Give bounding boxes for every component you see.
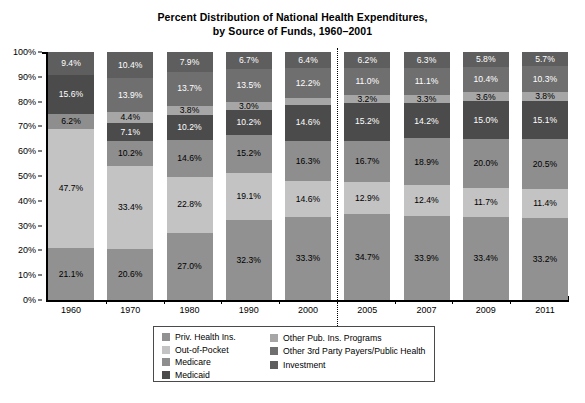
bar-segment[interactable]: 33.2% <box>522 218 568 300</box>
bar-segment-value: 7.9% <box>180 58 200 67</box>
legend-item[interactable]: Medicare <box>162 356 270 368</box>
y-axis-tick-label: 10% <box>18 270 36 280</box>
bar-segment[interactable]: 13.5% <box>226 69 272 102</box>
bar-column-1980[interactable]: 7.9%13.7%3.8%10.2%14.6%22.8%27.0% <box>167 52 213 300</box>
bar-segment[interactable]: 3.6% <box>463 92 509 101</box>
bar-segment[interactable]: 16.3% <box>285 141 331 181</box>
bar-segment[interactable]: 3.2% <box>344 95 390 103</box>
bar-segment[interactable]: 4.4% <box>107 112 153 123</box>
legend-swatch-icon <box>162 371 170 379</box>
bar-column-2007[interactable]: 6.3%11.1%3.3%14.2%18.9%12.4%33.9% <box>404 52 450 300</box>
legend-item[interactable]: Medicaid <box>162 369 270 381</box>
bar-segment[interactable]: 14.2% <box>404 103 450 138</box>
bar-segment[interactable]: 12.9% <box>344 182 390 214</box>
bar-segment[interactable]: 10.4% <box>107 52 153 78</box>
bar-segment[interactable]: 20.5% <box>522 139 568 190</box>
bar-segment[interactable]: 6.2% <box>344 52 390 67</box>
bar-segment[interactable]: 11.4% <box>522 189 568 217</box>
bar-segment-value: 3.3% <box>417 95 437 103</box>
bar-segment[interactable]: 14.6% <box>285 181 331 217</box>
x-axis-label-2009: 2009 <box>463 305 509 315</box>
y-axis-tick-label: 100% <box>13 47 36 57</box>
bar-segment-value: 33.9% <box>414 254 438 263</box>
bar-segment[interactable]: 32.3% <box>226 220 272 300</box>
legend-label: Medicaid <box>175 370 210 380</box>
legend: Priv. Health Ins.Out-of-PocketMedicareMe… <box>153 326 435 382</box>
legend-item[interactable]: Other Pub. Ins. Programs <box>270 331 430 344</box>
y-axis-tick-mark <box>38 151 42 152</box>
bar-segment[interactable]: 6.2% <box>48 114 94 129</box>
bar-segment[interactable]: 19.1% <box>226 173 272 220</box>
bar-segment-value: 10.2% <box>118 149 142 158</box>
bar-segment[interactable]: 6.7% <box>226 52 272 69</box>
bar-column-1990[interactable]: 6.7%13.5%3.0%10.2%15.2%19.1%32.3% <box>226 52 272 300</box>
bar-segment[interactable]: 10.2% <box>107 141 153 166</box>
bar-column-2011[interactable]: 5.7%10.3%3.8%15.1%20.5%11.4%33.2% <box>522 52 568 300</box>
bar-column-1970[interactable]: 10.4%13.9%4.4%7.1%10.2%33.4%20.6% <box>107 52 153 300</box>
bar-segment[interactable]: 10.3% <box>522 66 568 92</box>
bar-column-2009[interactable]: 5.8%10.4%3.6%15.0%20.0%11.7%33.4% <box>463 52 509 300</box>
bar-segment[interactable]: 33.4% <box>463 217 509 300</box>
bar-segment[interactable]: 15.2% <box>226 135 272 173</box>
bar-segment[interactable]: 10.2% <box>167 115 213 140</box>
bar-segment[interactable]: 18.9% <box>404 138 450 185</box>
bar-segment[interactable]: 12.4% <box>404 185 450 216</box>
bar-segment[interactable]: 13.7% <box>167 72 213 106</box>
bar-segment-value: 4.4% <box>120 113 140 122</box>
bar-segment[interactable]: 9.4% <box>48 52 94 75</box>
bar-segment[interactable]: 10.2% <box>226 110 272 135</box>
bar-segment[interactable]: 20.0% <box>463 139 509 189</box>
legend-swatch-icon <box>162 333 170 341</box>
bar-segment-value: 13.7% <box>177 84 201 93</box>
bar-segment[interactable]: 21.1% <box>48 248 94 300</box>
bar-segment[interactable]: 15.6% <box>48 75 94 114</box>
legend-item[interactable]: Priv. Health Ins. <box>162 331 270 343</box>
bar-segment[interactable]: 33.9% <box>404 216 450 300</box>
bar-segment[interactable]: 5.8% <box>463 52 509 66</box>
bar-column-2005[interactable]: 6.2%11.0%3.2%15.2%16.7%12.9%34.7% <box>344 52 390 300</box>
bar-segment[interactable]: 11.0% <box>344 68 390 95</box>
bar-segment[interactable]: 14.6% <box>167 140 213 176</box>
legend-item[interactable]: Investment <box>270 358 430 371</box>
bar-segment-value: 3.8% <box>535 92 555 101</box>
bar-segment-value: 11.7% <box>474 198 498 207</box>
x-axis-tick-mark <box>106 300 107 304</box>
legend-label: Other Pub. Ins. Programs <box>283 333 382 343</box>
bar-segment[interactable]: 11.7% <box>463 188 509 217</box>
bar-column-2000[interactable]: 6.4%12.2%14.6%16.3%14.6%33.3% <box>285 52 331 300</box>
bar-column-1960[interactable]: 9.4%15.6%6.2%47.7%21.1% <box>48 52 94 300</box>
bar-segment[interactable]: 27.0% <box>167 233 213 300</box>
bar-segment[interactable]: 34.7% <box>344 214 390 300</box>
bar-segment[interactable]: 6.4% <box>285 52 331 68</box>
bar-segment[interactable]: 3.0% <box>226 102 272 109</box>
bar-segment[interactable]: 3.3% <box>404 95 450 103</box>
bar-segment[interactable]: 3.8% <box>522 92 568 101</box>
bar-segment[interactable]: 6.3% <box>404 52 450 68</box>
legend-item[interactable]: Other 3rd Party Payers/Public Health <box>270 345 430 358</box>
x-axis-labels: 196019701980199020002005200720092011 <box>48 305 568 315</box>
bar-segment[interactable]: 5.7% <box>522 52 568 66</box>
y-axis-tick-mark <box>38 225 42 226</box>
bar-segment[interactable]: 15.2% <box>344 103 390 141</box>
bar-segment-value: 15.0% <box>474 116 498 125</box>
bar-segment[interactable]: 16.7% <box>344 141 390 182</box>
bar-segment-value: 16.7% <box>355 157 379 166</box>
bar-segment[interactable]: 14.6% <box>285 105 331 141</box>
bar-segment[interactable]: 12.2% <box>285 68 331 98</box>
bar-segment[interactable]: 7.1% <box>107 123 153 141</box>
bar-segment[interactable]: 33.3% <box>285 217 331 300</box>
bar-segment[interactable]: 22.8% <box>167 177 213 234</box>
legend-item[interactable]: Out-of-Pocket <box>162 344 270 356</box>
bar-segment-value: 5.8% <box>476 55 496 64</box>
bar-segment[interactable]: 15.1% <box>522 101 568 138</box>
bar-segment[interactable]: 7.9% <box>167 52 213 72</box>
bar-segment-value: 7.1% <box>120 128 140 137</box>
bar-segment[interactable]: 10.4% <box>463 67 509 93</box>
bar-segment[interactable]: 33.4% <box>107 166 153 249</box>
bar-segment[interactable]: 20.6% <box>107 249 153 300</box>
bar-segment[interactable]: 11.1% <box>404 68 450 96</box>
bar-segment[interactable]: 15.0% <box>463 101 509 138</box>
bar-segment[interactable]: 47.7% <box>48 129 94 247</box>
bar-segment[interactable]: 3.8% <box>167 106 213 115</box>
bar-segment[interactable]: 13.9% <box>107 78 153 112</box>
